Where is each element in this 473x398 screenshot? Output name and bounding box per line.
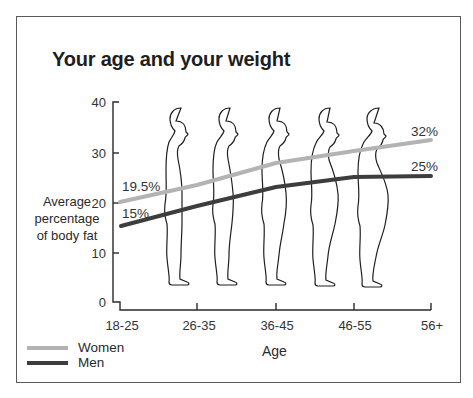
legend-item-men: Men xyxy=(27,355,124,370)
legend: Women Men xyxy=(27,340,124,370)
men-end-annotation: 25% xyxy=(411,159,438,174)
silhouettes xyxy=(165,108,389,287)
y-axis-label-line-1: Average xyxy=(26,193,108,210)
y-axis xyxy=(113,102,431,310)
legend-item-women: Women xyxy=(27,340,124,355)
silhouette-3-icon xyxy=(262,108,289,285)
y-axis-label: Average percentage of body fat xyxy=(26,193,108,244)
silhouette-5-icon xyxy=(358,108,389,287)
legend-swatch-men xyxy=(27,361,68,365)
men-start-annotation: 15% xyxy=(122,206,149,221)
legend-swatch-women xyxy=(27,346,68,350)
y-tick-40: 40 xyxy=(92,95,106,110)
men-line xyxy=(121,176,431,226)
y-tick-10: 10 xyxy=(92,246,106,261)
x-tick-labels: 18-25 26-35 36-45 46-55 56+ xyxy=(105,318,443,333)
x-tick-56-plus: 56+ xyxy=(421,318,443,333)
y-axis-label-line-2: percentage xyxy=(26,210,108,227)
x-tick-26-35: 26-35 xyxy=(182,318,215,333)
women-line xyxy=(120,140,431,202)
silhouette-1-icon xyxy=(165,108,189,285)
x-tick-36-45: 36-45 xyxy=(260,318,293,333)
women-start-annotation: 19.5% xyxy=(122,179,160,194)
x-tick-18-25: 18-25 xyxy=(105,318,138,333)
women-end-annotation: 32% xyxy=(411,124,438,139)
y-tick-0: 0 xyxy=(99,295,106,310)
y-axis-label-line-3: of body fat xyxy=(26,227,108,244)
y-tick-30: 30 xyxy=(92,146,106,161)
legend-label-women: Women xyxy=(78,340,124,355)
x-tick-46-55: 46-55 xyxy=(338,318,371,333)
silhouette-4-icon xyxy=(311,108,339,286)
legend-label-men: Men xyxy=(78,355,104,370)
x-axis-label: Age xyxy=(262,343,287,359)
